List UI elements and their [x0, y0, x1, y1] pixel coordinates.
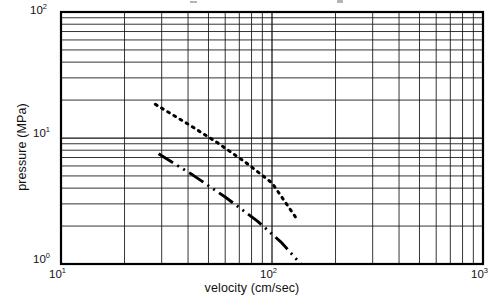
x-tick-mantissa: 10 [49, 268, 62, 280]
y-axis-tick-100: 102 [30, 4, 47, 16]
y-axis-label: pressure (MPa) [15, 87, 29, 207]
x-axis-tick-100: 102 [260, 268, 277, 280]
y-axis-tick-1: 100 [33, 253, 50, 265]
x-axis-label: velocity (cm/sec) [0, 281, 504, 295]
data-series-layer [155, 104, 301, 264]
y-tick-mantissa: 10 [30, 4, 43, 16]
y-tick-exponent: 0 [46, 251, 50, 260]
x-tick-exponent: 3 [484, 266, 488, 275]
series-lower-curve [159, 154, 301, 264]
series-upper-curve [155, 104, 298, 221]
x-axis-tick-10: 101 [49, 268, 66, 280]
x-tick-exponent: 1 [62, 266, 66, 275]
y-axis-tick-10: 101 [33, 127, 50, 139]
scan-artifact-top-right [337, 0, 343, 3]
x-axis-tick-1000: 103 [471, 268, 488, 280]
x-tick-mantissa: 10 [471, 268, 484, 280]
plot-canvas [0, 0, 504, 306]
y-tick-mantissa: 10 [33, 253, 46, 265]
chart-figure: pressure (MPa) velocity (cm/sec) 102 101… [0, 0, 504, 306]
x-tick-mantissa: 10 [260, 268, 273, 280]
y-tick-exponent: 2 [43, 2, 47, 11]
x-tick-exponent: 2 [273, 266, 277, 275]
y-tick-exponent: 1 [46, 125, 50, 134]
y-tick-mantissa: 10 [33, 127, 46, 139]
scan-artifact-top-left [190, 1, 197, 3]
